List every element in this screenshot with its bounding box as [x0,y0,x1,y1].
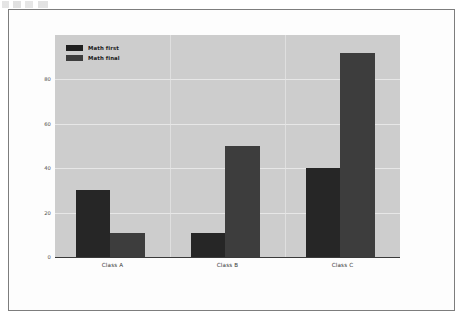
bar-class-a-math-first [76,190,111,257]
vertical-gridline-2 [285,35,286,257]
bar-class-c-math-first [306,168,341,257]
x-tick-label-class-b: Class B [217,262,238,268]
legend-swatch-math-first [66,45,83,51]
legend-label-math-first: Math first [88,45,119,51]
bar-class-c-math-final [340,53,375,257]
vertical-gridline-1 [170,35,171,257]
legend-item-math-final: Math final [66,54,120,62]
legend-swatch-math-final [66,55,83,61]
legend-label-math-final: Math final [88,55,120,61]
x-tick-label-class-a: Class A [102,262,123,268]
bar-class-a-math-final [110,233,145,257]
screenshot-top-artifact [2,1,48,8]
bar-class-b-math-final [225,146,260,257]
chart-figure: Math first Math final 020406080 Class AC… [9,10,454,310]
x-tick-label-class-c: Class C [332,262,353,268]
plot-area: Math first Math final [55,35,400,257]
y-tick-label-0: 0 [48,254,51,260]
chart-window-frame: Math first Math final 020406080 Class AC… [8,9,455,311]
chart-legend: Math first Math final [63,42,124,66]
x-axis-line [55,257,400,258]
legend-item-math-first: Math first [66,44,120,52]
y-tick-label-80: 80 [44,76,51,82]
y-tick-label-40: 40 [44,165,51,171]
bar-class-b-math-first [191,233,226,257]
y-tick-label-60: 60 [44,121,51,127]
y-tick-label-20: 20 [44,210,51,216]
y-axis-tick-labels: 020406080 [29,10,51,310]
